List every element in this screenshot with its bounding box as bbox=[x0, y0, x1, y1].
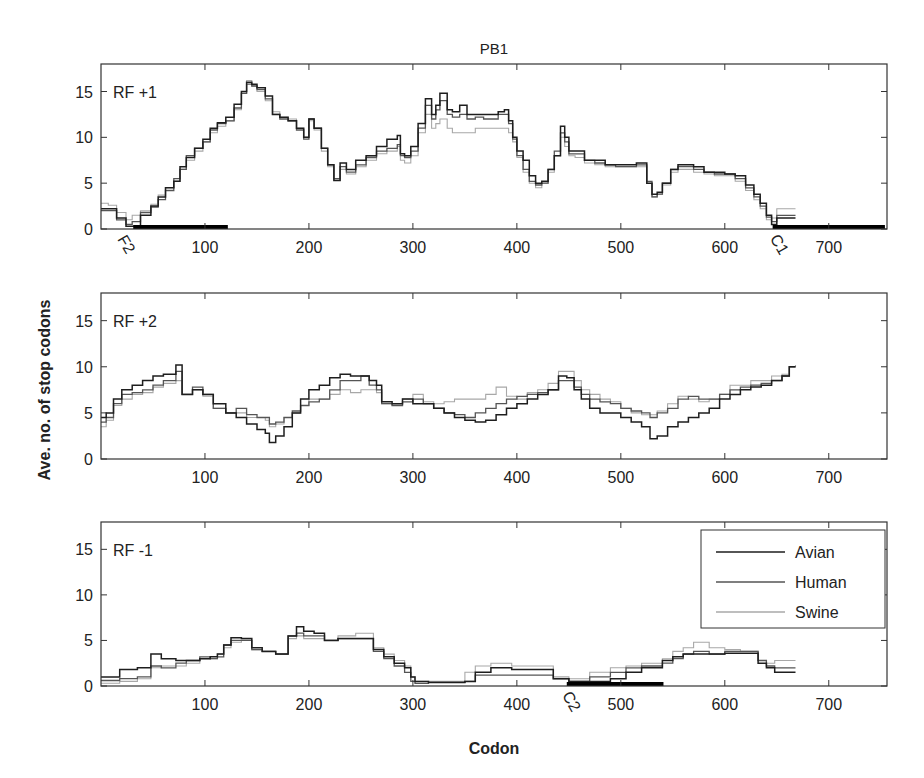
x-tick-label: 300 bbox=[400, 696, 427, 713]
x-tick-label: 600 bbox=[711, 239, 738, 256]
annotation-f2: F2 bbox=[115, 232, 139, 257]
panel-2: 100200300400500600700051015RF +2 bbox=[75, 293, 887, 486]
series-avian bbox=[101, 627, 796, 683]
series-human bbox=[101, 84, 796, 224]
panel-3: 100200300400500600700051015RF -1C2AvianH… bbox=[75, 522, 887, 714]
annotation-c1: C1 bbox=[767, 231, 792, 257]
axes-frame bbox=[101, 64, 887, 229]
chart-figure: 100200300400500600700051015RF +1F2C11002… bbox=[0, 0, 924, 778]
axes-frame bbox=[101, 293, 887, 459]
panel-label: RF -1 bbox=[113, 542, 153, 559]
y-tick-label: 10 bbox=[75, 359, 93, 376]
x-tick-label: 300 bbox=[400, 239, 427, 256]
y-tick-label: 0 bbox=[84, 221, 93, 238]
x-tick-label: 100 bbox=[192, 469, 219, 486]
x-tick-label: 600 bbox=[711, 469, 738, 486]
y-tick-label: 0 bbox=[84, 678, 93, 695]
series-avian bbox=[101, 365, 796, 443]
x-tick-label: 400 bbox=[504, 696, 531, 713]
legend: AvianHumanSwine bbox=[701, 530, 885, 628]
y-tick-label: 15 bbox=[75, 313, 93, 330]
panel-1: 100200300400500600700051015RF +1F2C1 bbox=[75, 64, 887, 257]
x-tick-label: 200 bbox=[296, 239, 323, 256]
y-tick-label: 15 bbox=[75, 541, 93, 558]
y-tick-label: 0 bbox=[84, 451, 93, 468]
y-tick-label: 5 bbox=[84, 175, 93, 192]
y-tick-label: 5 bbox=[84, 632, 93, 649]
x-tick-label: 500 bbox=[607, 469, 634, 486]
legend-label-human: Human bbox=[795, 574, 847, 591]
x-tick-label: 200 bbox=[296, 469, 323, 486]
legend-label-swine: Swine bbox=[795, 604, 839, 621]
series-swine bbox=[101, 81, 796, 220]
y-tick-label: 15 bbox=[75, 84, 93, 101]
x-tick-label: 600 bbox=[711, 696, 738, 713]
x-tick-label: 200 bbox=[296, 696, 323, 713]
x-tick-label: 700 bbox=[815, 469, 842, 486]
x-tick-label: 500 bbox=[607, 696, 634, 713]
x-tick-label: 400 bbox=[504, 469, 531, 486]
panel-label: RF +1 bbox=[113, 84, 157, 101]
x-tick-label: 300 bbox=[400, 469, 427, 486]
x-tick-label: 100 bbox=[192, 696, 219, 713]
x-tick-label: 700 bbox=[815, 239, 842, 256]
series-human bbox=[101, 367, 796, 424]
y-tick-label: 10 bbox=[75, 129, 93, 146]
y-tick-label: 10 bbox=[75, 587, 93, 604]
region-bar bbox=[133, 225, 228, 229]
annotation-c2: C2 bbox=[559, 688, 584, 714]
x-tick-label: 700 bbox=[815, 696, 842, 713]
x-tick-label: 400 bbox=[504, 239, 531, 256]
panel-label: RF +2 bbox=[113, 313, 157, 330]
x-tick-label: 100 bbox=[192, 239, 219, 256]
x-tick-label: 500 bbox=[607, 239, 634, 256]
series-avian bbox=[101, 82, 796, 226]
y-tick-label: 5 bbox=[84, 405, 93, 422]
legend-label-avian: Avian bbox=[795, 544, 835, 561]
